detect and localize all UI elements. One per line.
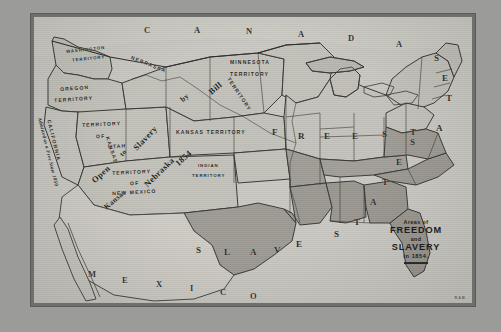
free-letter-s2: S: [434, 53, 440, 63]
slave-letter-l: L: [224, 247, 231, 257]
free-letter-r: R: [298, 131, 305, 141]
title-cartouche: Areas of FREEDOM and SLAVERY in 1854.: [374, 219, 458, 264]
mexico-letter-i: I: [190, 283, 193, 293]
canada-letter-c: C: [144, 25, 150, 35]
slave-letter-e2: E: [396, 157, 403, 167]
free-letter-t1: T: [410, 127, 417, 137]
mexico-letter-m: M: [88, 269, 96, 279]
new-mexico-territory-label-line2: OF: [130, 180, 140, 186]
map-field: C A N A D A M E X I C O F R E E S T A T …: [34, 17, 472, 303]
minnesota-territory-label-line2: TERRITORY: [230, 71, 269, 77]
free-letter-s1: S: [382, 129, 388, 139]
slave-letter-s2: S: [334, 229, 340, 239]
map-page: C A N A D A M E X I C O F R E E S T A T …: [0, 0, 501, 332]
canada-letter-n: N: [246, 26, 252, 36]
slave-letter-t1: T: [354, 217, 361, 227]
slave-letter-s3: S: [410, 137, 416, 147]
free-letter-a: A: [436, 123, 443, 133]
mexico-letter-e: E: [122, 275, 128, 285]
slave-letter-t2: T: [382, 177, 389, 187]
free-letter-f: F: [272, 127, 278, 137]
map-frame-border: C A N A D A M E X I C O F R E E S T A T …: [31, 14, 475, 306]
mexico-letter-x: X: [156, 279, 162, 289]
slave-letter-a1: A: [250, 247, 257, 257]
title-line-year: in 1854.: [374, 253, 458, 259]
canada-letter-a3: A: [396, 39, 402, 49]
mexico-letter-o: O: [250, 291, 257, 301]
mexico-letter-c: C: [220, 287, 226, 297]
kansas-territory-label: KANSAS TERRITORY: [176, 129, 246, 135]
title-line-freedom: FREEDOM: [374, 225, 458, 236]
slave-letter-e1: E: [296, 239, 303, 249]
engraver-signature: R.A.M.: [455, 296, 466, 300]
title-underline-rule: [404, 262, 428, 264]
free-letter-e2: E: [352, 131, 359, 141]
slave-letter-v: V: [274, 245, 281, 255]
free-letter-e3: E: [442, 73, 449, 83]
canada-letter-a1: A: [194, 25, 200, 35]
indian-territory-label-line1: INDIAN: [198, 163, 219, 168]
title-line-slavery: SLAVERY: [374, 242, 458, 253]
minnesota-territory-label-line1: MINNESOTA: [230, 59, 270, 65]
free-letter-t2: T: [446, 93, 453, 103]
slave-letter-s: S: [196, 245, 202, 255]
utah-territory-label-line2: OF: [96, 133, 106, 139]
free-letter-e1: E: [324, 131, 331, 141]
indian-territory-label-line2: TERRITORY: [192, 173, 225, 178]
canada-letter-a2: A: [298, 29, 304, 39]
slave-letter-a2: A: [370, 197, 377, 207]
canada-letter-d: D: [348, 33, 354, 43]
